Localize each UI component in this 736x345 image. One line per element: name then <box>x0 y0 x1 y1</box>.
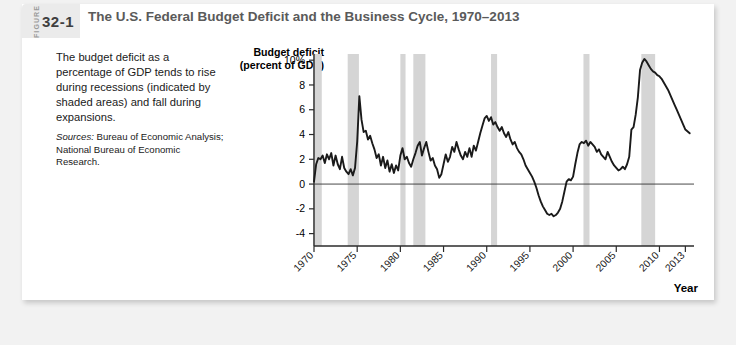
x-tick-label: 1990 <box>464 249 488 273</box>
y-tick-label: 0 <box>299 178 305 190</box>
y-tick-label: 10% <box>284 54 305 66</box>
deficit-line-chart: 10%86420-2-41970197519801985199019952000… <box>232 46 702 296</box>
y-tick-label: -2 <box>296 202 305 214</box>
x-tick-label: 1975 <box>335 249 359 273</box>
figure-root: FIGURE 32-1 The U.S. Federal Budget Defi… <box>0 0 736 345</box>
deficit-series-line <box>314 59 690 216</box>
figure-word-label: FIGURE <box>33 0 40 47</box>
figure-caption: The budget deficit as a percentage of GD… <box>56 50 224 168</box>
x-tick-label: 2000 <box>551 249 575 273</box>
y-tick-label: -4 <box>296 227 305 239</box>
x-tick-label: 1970 <box>291 249 315 273</box>
recession-band <box>491 54 497 246</box>
chart-container: Budget deficit (percent of GDP) 10%86420… <box>232 46 702 296</box>
figure-number: 32-1 <box>42 13 74 30</box>
y-tick-label: 4 <box>299 128 305 140</box>
y-tick-label: 6 <box>299 103 305 115</box>
caption-sources-label: Sources: <box>56 131 94 142</box>
x-tick-label: 1980 <box>378 249 402 273</box>
x-tick-label: 2010 <box>637 249 661 273</box>
caption-body: The budget deficit as a percentage of GD… <box>56 50 224 124</box>
recession-band <box>583 54 589 246</box>
x-tick-label: 1995 <box>507 249 531 273</box>
x-tick-label: 2013 <box>663 249 687 273</box>
figure-title: The U.S. Federal Budget Deficit and the … <box>88 9 519 24</box>
y-tick-label: 8 <box>299 79 305 91</box>
caption-sources: Sources: Bureau of Economic Analysis; Na… <box>56 131 224 168</box>
recession-band <box>641 54 655 246</box>
figure-badge: FIGURE 32-1 <box>22 4 80 38</box>
y-tick-label: 2 <box>299 153 305 165</box>
x-tick-label: 2005 <box>594 249 618 273</box>
x-tick-label: 1985 <box>421 249 445 273</box>
x-axis-title: Year <box>674 282 698 294</box>
